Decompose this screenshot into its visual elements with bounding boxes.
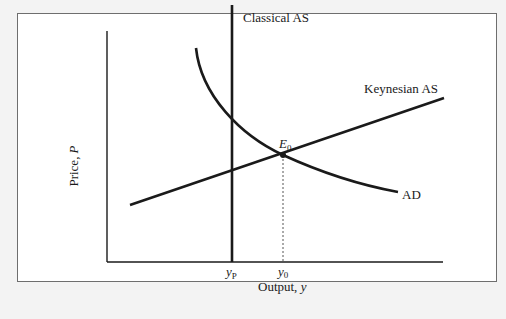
equilibrium-label: E0 (278, 136, 292, 153)
ad-curve (196, 48, 398, 192)
x-tick-y0: y0 (276, 264, 289, 280)
x-axis-label-text: Output, (258, 279, 301, 294)
equilibrium-point (280, 152, 286, 158)
x-tick-yp-sub: P (232, 271, 237, 281)
as-ad-diagram: Classical AS Keynesian AS AD E0 yP y0 Ou… (0, 0, 506, 319)
keynesian-as-label: Keynesian AS (364, 81, 438, 96)
y-axis-label: Price, P (66, 145, 81, 186)
equilibrium-label-sub: 0 (287, 143, 292, 153)
x-axis-label: Output, y (258, 279, 307, 294)
ad-label: AD (402, 187, 421, 202)
x-axis-label-var: y (299, 279, 307, 294)
x-tick-yp: yP (224, 264, 237, 281)
equilibrium-label-base: E (278, 136, 287, 151)
y-axis-label-text: Price, (66, 153, 81, 186)
y-axis-label-var: P (66, 145, 81, 154)
classical-as-label: Classical AS (243, 10, 309, 25)
page: Classical AS Keynesian AS AD E0 yP y0 Ou… (0, 0, 506, 319)
